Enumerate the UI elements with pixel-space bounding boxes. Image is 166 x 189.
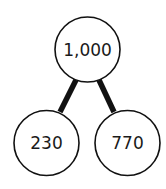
connector-left bbox=[60, 80, 76, 112]
whole-value: 1,000 bbox=[63, 40, 112, 60]
connector-right bbox=[99, 80, 114, 112]
part-value-right: 770 bbox=[111, 133, 143, 153]
part-value-left: 230 bbox=[30, 133, 62, 153]
whole-node: 1,000 bbox=[55, 17, 120, 82]
number-bond-diagram: 1,000 230 770 bbox=[0, 0, 166, 189]
part-node-right: 770 bbox=[95, 111, 160, 176]
part-node-left: 230 bbox=[14, 111, 79, 176]
